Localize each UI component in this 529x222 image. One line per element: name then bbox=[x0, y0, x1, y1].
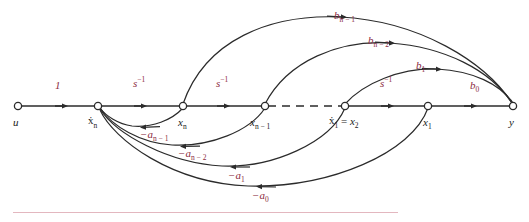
node-label-xdot-n: ẋn bbox=[88, 116, 97, 127]
bottom-divider-rule bbox=[13, 212, 398, 213]
arc-bn-2 bbox=[265, 43, 512, 104]
gain-label-s-inverse-3: s−1 bbox=[380, 78, 392, 89]
node-xdot-1 bbox=[341, 102, 348, 109]
gain-label-minus-a1: −a1 bbox=[228, 170, 245, 181]
arc-bn-1 bbox=[183, 17, 512, 104]
gain-label-bn-1: bn − 1 bbox=[334, 10, 355, 21]
gain-label-s-inverse-2: s−1 bbox=[216, 78, 228, 89]
node-u bbox=[14, 102, 21, 109]
gain-label-minus-an-2: −an − 2 bbox=[178, 148, 206, 159]
gain-label-b0: b0 bbox=[470, 80, 479, 91]
node-label-x-n: xn bbox=[178, 117, 187, 128]
node-x-1 bbox=[424, 102, 431, 109]
node-label-x-n-minus-1: xn − 1 bbox=[250, 117, 270, 128]
node-label-x-1: x1 bbox=[423, 117, 432, 128]
gain-label-s-inverse-1: s−1 bbox=[133, 78, 145, 89]
node-x-n-minus-1 bbox=[261, 102, 268, 109]
arc-b1 bbox=[345, 69, 513, 104]
node-x-n bbox=[179, 102, 186, 109]
node-y bbox=[509, 102, 516, 109]
node-label-u: u bbox=[13, 117, 19, 128]
gain-label-b1: b1 bbox=[416, 60, 425, 71]
node-label-y: y bbox=[509, 117, 514, 128]
node-xdot-n bbox=[94, 102, 101, 109]
gain-label-bn-2: bn − 2 bbox=[368, 35, 389, 46]
gain-label-one: 1 bbox=[55, 80, 61, 91]
figure-canvas: 1 s−1 s−1 s−1 b0 bn − 1 bn − 2 b1 −an − … bbox=[0, 0, 529, 222]
feedforward-arcs-group bbox=[183, 16, 513, 104]
gain-label-minus-an-1: −an − 1 bbox=[140, 129, 168, 140]
node-label-xdot-1-equals-x-2: ẋ1 = x2 bbox=[329, 116, 359, 127]
gain-label-minus-a0: −a0 bbox=[252, 190, 269, 201]
